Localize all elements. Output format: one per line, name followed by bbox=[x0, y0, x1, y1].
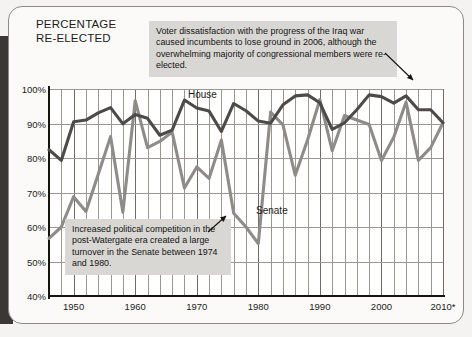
series-line-house bbox=[49, 95, 443, 161]
y-axis-tick-label: 40% bbox=[8, 291, 46, 302]
series-label-senate: Senate bbox=[256, 205, 288, 216]
chart-title: PERCENTAGE RE-ELECTED bbox=[36, 18, 116, 45]
y-axis-tick-label: 60% bbox=[8, 222, 46, 233]
x-axis-tick-label: 1980 bbox=[248, 301, 269, 312]
x-axis-tick-label: 1960 bbox=[125, 301, 146, 312]
x-axis-tick-label: 1990 bbox=[309, 301, 330, 312]
y-axis-tick-label: 70% bbox=[8, 187, 46, 198]
y-axis-tick-label: 100% bbox=[8, 84, 46, 95]
scanned-page: PERCENTAGE RE-ELECTED 40%50%60%70%80%90%… bbox=[0, 0, 472, 337]
x-axis-tick-label: 2010* bbox=[431, 301, 456, 312]
y-axis-tick-label: 90% bbox=[8, 118, 46, 129]
x-axis-tick-label: 2000 bbox=[371, 301, 392, 312]
annotation-iraq: Voter dissatisfaction with the progress … bbox=[149, 21, 397, 77]
gridline-vertical bbox=[443, 89, 444, 296]
series-label-house: House bbox=[188, 89, 217, 100]
x-axis-tick-label: 1970 bbox=[186, 301, 207, 312]
y-axis-tick-label: 80% bbox=[8, 153, 46, 164]
y-axis-tick-label: 50% bbox=[8, 256, 46, 267]
annotation-watergate: Increased political competition in the p… bbox=[65, 219, 231, 275]
y-axis-tick-labels: 40%50%60%70%80%90%100% bbox=[0, 0, 46, 337]
x-axis-tick-label: 1950 bbox=[63, 301, 84, 312]
